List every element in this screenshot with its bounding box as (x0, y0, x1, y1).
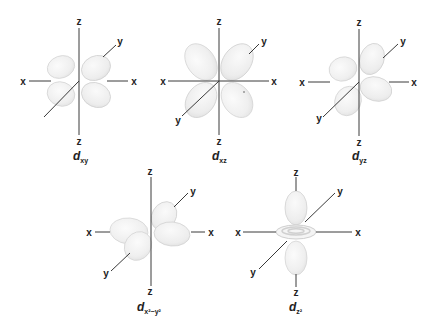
dz2-z-top-label: z (294, 167, 299, 178)
dxy-x-left-label: x (20, 76, 26, 87)
dyz-x-right-label: x (411, 77, 417, 88)
dxz-y-top-label: y (261, 36, 267, 47)
dyz-z-bottom-label: z (357, 137, 362, 148)
dxz-x-right-label: x (271, 76, 277, 87)
dx2-y2-x-right-label: x (208, 227, 214, 238)
dxy-x-right-label: x (131, 76, 137, 87)
dxy-y-label: y (117, 36, 123, 47)
orbital-dxz: z z x x y y dxz (160, 16, 277, 164)
dyz-y-bottom-label: y (316, 113, 322, 124)
dxy-z-top-label: z (77, 16, 82, 27)
dyz-lobes (326, 40, 394, 120)
dz2-y-axis-front (259, 241, 287, 269)
dyz-y-axis-back (383, 44, 398, 58)
dyz-z-top-label: z (357, 17, 362, 28)
dx2-y2-y-axis-back (174, 193, 188, 207)
dz2-lobes (276, 191, 316, 275)
orbital-dyz: z z x x y y dyz (299, 17, 417, 165)
orbital-dx2-y2: z z x x y y dx²−y² (86, 166, 214, 316)
dxz-orbital-label: dxz (212, 149, 227, 164)
dz2-y-axis-back (305, 193, 335, 222)
dx2-y2-z-top-label: z (148, 166, 153, 177)
dxz-y-bottom-label: y (175, 115, 181, 126)
dxy-y-axis-back (103, 45, 116, 57)
dz2-x-right-label: x (355, 227, 361, 238)
dxy-orbital-label: dxy (73, 149, 88, 165)
dz2-orbital-label: dz² (289, 300, 303, 315)
dxz-speck (243, 91, 245, 93)
dyz-x-left-label: x (299, 77, 305, 88)
dx2-y2-y-top-label: y (190, 186, 196, 197)
dyz-y-top-label: y (400, 36, 406, 47)
dx2-y2-y-axis-front (111, 253, 130, 271)
dxz-x-left-label: x (160, 76, 166, 87)
dx2-y2-z-bottom-label: z (148, 286, 153, 297)
orbital-dz2: z z x x y y dz² (235, 167, 361, 315)
dx2-y2-lobes (109, 197, 191, 266)
dxz-z-top-label: z (217, 16, 222, 27)
d-orbitals-diagram: z z x x y dxy z z x x y y dxz (0, 0, 442, 326)
dz2-y-top-label: y (337, 186, 343, 197)
dz2-y-bottom-label: y (250, 267, 256, 278)
dz2-z-bottom-label: z (294, 287, 299, 298)
dz2-x-left-label: x (235, 227, 241, 238)
dxz-z-bottom-label: z (217, 136, 222, 147)
dx2-y2-x-left-label: x (86, 227, 92, 238)
dx2-y2-y-bottom-label: y (103, 268, 109, 279)
dxy-z-bottom-label: z (77, 136, 82, 147)
orbital-dxy: z z x x y dxy (20, 16, 137, 165)
dx2-y2-orbital-label: dx²−y² (137, 300, 162, 316)
dyz-orbital-label: dyz (352, 149, 367, 165)
